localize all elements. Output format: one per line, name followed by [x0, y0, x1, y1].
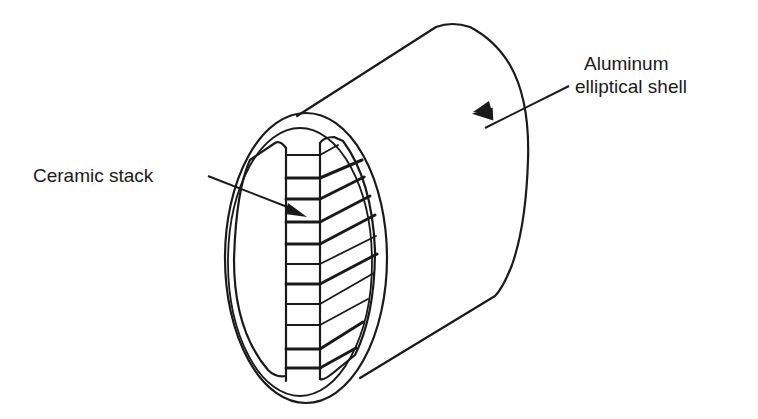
- label-line: Aluminum: [575, 52, 687, 75]
- label-ceramic-stack: Ceramic stack: [33, 164, 153, 187]
- shell-front-outer-rim: [225, 113, 387, 403]
- shell-body-outline: [297, 24, 528, 378]
- arrowhead-icon: [285, 203, 307, 217]
- shell-front-inner-rim: [228, 128, 372, 396]
- stack-leader-arrow: [208, 176, 307, 217]
- label-aluminum-elliptical-shell: Aluminum elliptical shell: [575, 52, 687, 98]
- label-line: elliptical shell: [575, 75, 687, 98]
